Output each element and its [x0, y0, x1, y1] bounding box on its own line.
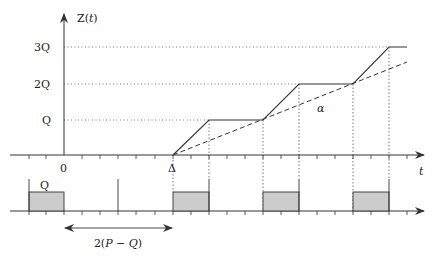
t-axis-ticks — [29, 155, 407, 159]
origin-label: 0 — [60, 162, 67, 175]
batch-box-4 — [353, 192, 389, 211]
rate-line-alpha — [173, 62, 407, 155]
cumulative-curve — [173, 47, 407, 155]
batch-label: Q — [40, 179, 49, 192]
diagram-canvas: Z(t) 3Q 2Q Q t 0 Δ α — [0, 0, 435, 258]
vertical-guides — [173, 47, 389, 211]
y-tick-2q: 2Q — [34, 78, 50, 91]
alpha-label: α — [317, 102, 325, 115]
batch-box-3 — [263, 192, 299, 211]
interval-label: 2(P − Q) — [94, 237, 142, 250]
batch-box-2 — [173, 192, 209, 211]
period-markers — [29, 179, 389, 211]
batch-timeline-ticks — [29, 211, 407, 215]
y-tick-q: Q — [42, 114, 51, 127]
y-tick-3q: 3Q — [34, 41, 50, 54]
batch-box-1 — [29, 192, 64, 211]
t-axis-label: t — [419, 165, 424, 178]
delta-label: Δ — [168, 162, 176, 175]
y-axis-label: Z(t) — [77, 12, 98, 25]
